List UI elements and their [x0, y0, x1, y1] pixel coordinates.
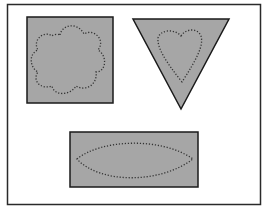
square-shape: [27, 17, 113, 103]
rectangle-shape: [70, 132, 198, 187]
diagram-canvas: [0, 0, 263, 210]
